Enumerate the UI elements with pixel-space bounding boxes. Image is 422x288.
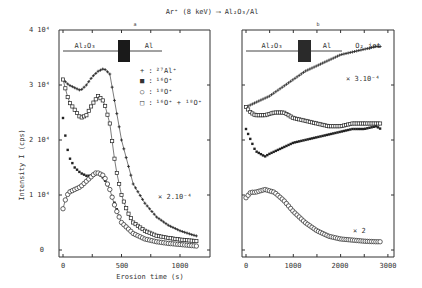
layer-metal-label: Al (323, 42, 331, 50)
interface-block (298, 40, 311, 62)
panel-a: 0 1 10⁴ 2 10⁴ 3 10⁴ 4 10⁴ 0 500 1000 Ero… (29, 26, 210, 281)
y-tick-label: 1 10⁴ (29, 191, 50, 199)
series-square (244, 105, 381, 127)
panel-b-label: b (316, 21, 319, 27)
y-tick-label: 4 10⁴ (29, 26, 50, 34)
legend-item: ○ :¹⁸O⁺ (140, 88, 173, 96)
layer-oxide-label: Al₂O₃ (261, 42, 282, 50)
series-circle (61, 171, 199, 248)
series-circle (244, 187, 382, 244)
layer-oxide-label: Al₂O₃ (74, 42, 95, 50)
panel-a-y-ticks: 0 1 10⁴ 2 10⁴ 3 10⁴ 4 10⁴ (29, 26, 50, 254)
chart-title: Ar⁺ (8 keV) ⟶ Al₂O₃/Al (166, 8, 259, 16)
x-tick-label: 3000 (380, 262, 397, 270)
x-tick-label: 0 (61, 262, 65, 270)
x-tick-label: 0 (244, 262, 248, 270)
chart-canvas: Ar⁺ (8 keV) ⟶ Al₂O₃/Al a b Intensity I (… (0, 0, 422, 288)
x-tick-label: 1000 (285, 262, 302, 270)
y-tick-label: 0 (40, 246, 44, 254)
series-filled-square (245, 125, 381, 157)
x-tick-label: 500 (116, 262, 129, 270)
scale-annotation-bottom: × 2 (353, 227, 366, 235)
layer-metal-label: Al (145, 42, 153, 50)
interface-block (118, 40, 130, 62)
legend: + :²⁷Al⁺ ■ :¹⁶O⁺ ○ :¹⁸O⁺ □ :¹⁶O⁺ + ¹⁸O⁺ (140, 67, 202, 107)
x-tick-label: 1000 (172, 262, 189, 270)
legend-item: □ :¹⁶O⁺ + ¹⁸O⁺ (140, 99, 202, 107)
legend-item: + :²⁷Al⁺ (140, 67, 177, 75)
y-tick-label: 2 10⁴ (29, 136, 50, 144)
legend-item: ■ :¹⁶O⁺ (140, 77, 173, 85)
y-tick-label: 3 10⁴ (29, 81, 50, 89)
x-axis-label: Erosion time (s) (116, 273, 183, 281)
x-tick-label: 2000 (332, 262, 349, 270)
scale-annotation: × 2.10⁻⁴ (158, 193, 192, 201)
panel-a-label: a (133, 21, 136, 27)
y-axis-label: Intensity I (cps) (18, 129, 26, 201)
scale-annotation-top: × 3.10⁻⁴ (346, 75, 380, 83)
panel-b: 0 1000 2000 3000 Al₂O₃ Al O₂ jet × 3.10⁻… (242, 30, 396, 270)
